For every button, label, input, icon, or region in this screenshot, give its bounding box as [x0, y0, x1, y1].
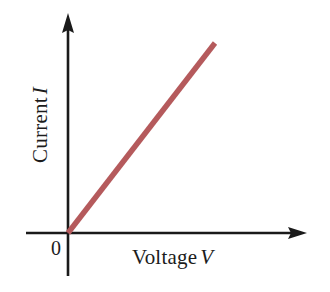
origin-label: 0 [51, 238, 61, 258]
data-line-ohmic [68, 43, 215, 233]
y-axis-arrow-icon [62, 13, 74, 33]
iv-characteristic-figure: CurrentI VoltageV 0 [0, 0, 330, 292]
x-axis-label: VoltageV [132, 247, 213, 268]
x-axis-label-symbol: V [197, 245, 213, 269]
x-axis-label-text: Voltage [132, 245, 197, 269]
